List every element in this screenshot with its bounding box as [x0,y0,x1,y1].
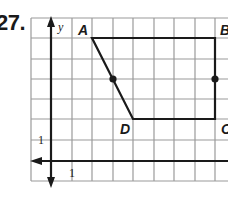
y-tick-label: 1 [38,133,44,147]
x-axis-arrow-left-icon [30,157,42,165]
vertex-label-A: A [77,22,88,38]
grid [31,18,228,181]
vertex-label-D: D [120,121,130,137]
midpoint-BC [211,75,218,82]
vertex-label-B: B [220,22,228,38]
y-axis-arrow-down-icon [47,177,55,188]
x-tick-label: 1 [69,166,75,180]
axes [30,16,228,188]
figure: 27. [0,0,228,197]
coordinate-graph: y A B C D 1 1 [0,0,228,197]
y-axis-label: y [57,20,64,34]
vertex-label-C: C [221,121,228,137]
midpoint-AD [109,75,116,82]
